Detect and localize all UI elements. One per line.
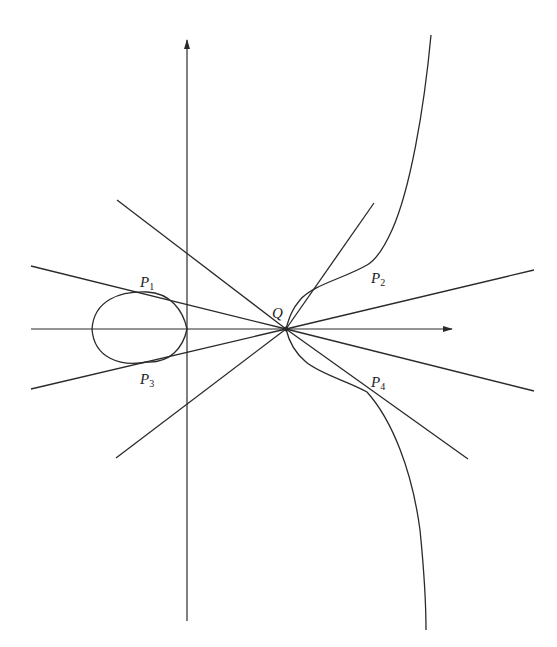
line-upper-left: [117, 200, 286, 329]
tangent-line-p1: [31, 266, 286, 329]
label-p3: P3: [139, 371, 154, 389]
tangent-line-p3: [31, 329, 286, 389]
curve-oval-component: [92, 292, 187, 363]
line-upper-right: [286, 270, 534, 329]
curve-unbounded-branch: [286, 35, 431, 630]
elliptic-curve-diagram: Q P1 P3 P2 P4: [0, 0, 557, 647]
tangent-line-p4: [286, 329, 468, 459]
label-q: Q: [272, 305, 283, 321]
tangent-line-p2: [286, 203, 374, 329]
label-p4: P4: [370, 374, 385, 392]
point-q-marker: [284, 327, 289, 332]
label-p1: P1: [139, 274, 154, 292]
line-lower-right: [286, 329, 534, 391]
label-p2: P2: [370, 270, 385, 288]
